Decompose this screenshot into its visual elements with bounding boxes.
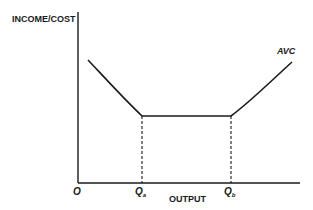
- origin-label: O: [73, 186, 81, 197]
- qb-main: Q: [224, 186, 232, 197]
- qb-subscript: b: [232, 192, 236, 198]
- qa-main: Q: [135, 186, 143, 197]
- avc-curve: [88, 60, 292, 116]
- avc-curve-label: AVC: [277, 46, 295, 56]
- qb-tick-label: Qb: [224, 186, 235, 198]
- avc-chart: [0, 0, 313, 210]
- y-axis-label: INCOME/COST: [12, 14, 76, 24]
- qa-tick-label: Qa: [135, 186, 146, 198]
- x-axis-label: OUTPUT: [169, 194, 206, 204]
- qa-subscript: a: [143, 192, 146, 198]
